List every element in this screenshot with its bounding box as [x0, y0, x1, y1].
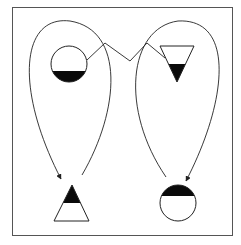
zigzag-link [87, 43, 165, 61]
circle-bottom-right [160, 185, 196, 221]
diagram-canvas [0, 0, 241, 245]
circle-top-left [51, 46, 87, 82]
diagram-frame [13, 8, 233, 236]
left-loop-arrow [29, 21, 111, 179]
right-loop-arrow [136, 21, 220, 181]
triangle-bottom-left [54, 185, 89, 221]
triangle-top-right [160, 46, 194, 82]
